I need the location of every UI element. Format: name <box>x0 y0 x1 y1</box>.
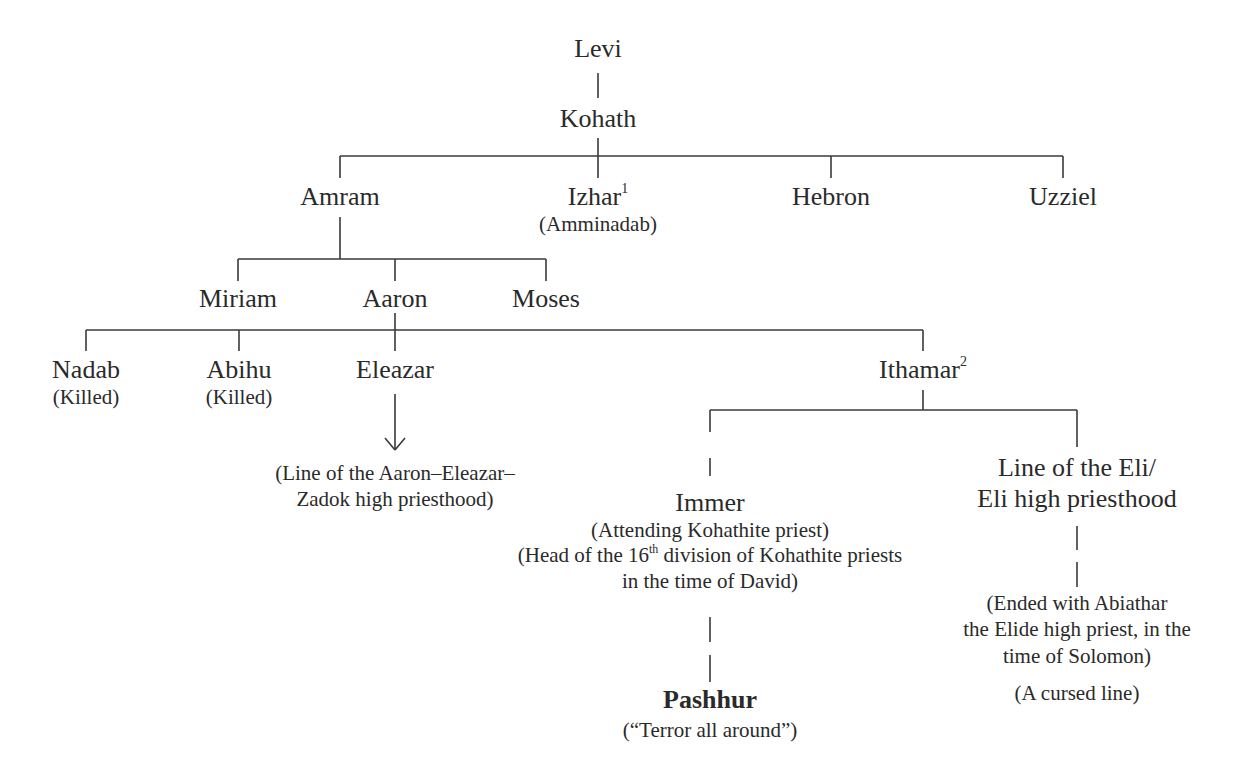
eleazar-note: (Line of the Aaron–Eleazar– Zadok high p… <box>275 460 515 513</box>
izhar-note: (Amminadab) <box>539 212 657 236</box>
node-abihu: Abihu (Killed) <box>206 355 272 409</box>
immer-name: Immer <box>675 488 744 517</box>
immer-note2-line2: in the time of David) <box>622 569 798 593</box>
eli-note-line2: the Elide high priest, in the <box>963 617 1190 641</box>
eli-note: (Ended with Abiathar the Elide high prie… <box>963 590 1190 669</box>
ithamar-name: Ithamar <box>879 355 960 384</box>
eli-note-line3: time of Solomon) <box>1003 644 1151 668</box>
eli-note-line1: (Ended with Abiathar <box>987 591 1168 615</box>
node-miriam: Miriam <box>199 284 277 314</box>
ithamar-footnote: 2 <box>960 354 967 369</box>
node-eli-line: Line of the Eli/ Eli high priesthood <box>977 452 1176 514</box>
izhar-name: Izhar <box>568 182 621 211</box>
nadab-name: Nadab <box>52 355 120 384</box>
eleazar-note-line1: (Line of the Aaron–Eleazar– <box>275 461 515 485</box>
node-kohath: Kohath <box>560 104 637 134</box>
pashhur-note: (“Terror all around”) <box>623 718 798 742</box>
abihu-note: (Killed) <box>206 385 272 409</box>
immer-note2: (Head of the 16th division of Kohathite … <box>518 543 902 567</box>
node-aaron: Aaron <box>363 284 428 314</box>
eli-cursed-note: (A cursed line) <box>1015 681 1140 705</box>
izhar-footnote: 1 <box>621 181 628 196</box>
node-eleazar: Eleazar <box>356 355 434 385</box>
node-immer: Immer (Attending Kohathite priest) (Head… <box>518 487 902 594</box>
node-moses: Moses <box>512 284 580 314</box>
eleazar-note-line2: Zadok high priesthood) <box>296 487 493 511</box>
node-nadab: Nadab (Killed) <box>52 355 120 409</box>
node-ithamar: Ithamar2 <box>879 355 967 385</box>
node-pashhur: Pashhur <box>663 685 757 715</box>
node-izhar: Izhar1 (Amminadab) <box>539 182 657 236</box>
immer-note1: (Attending Kohathite priest) <box>591 518 829 542</box>
abihu-name: Abihu <box>206 355 271 384</box>
node-amram: Amram <box>300 182 379 212</box>
node-uzziel: Uzziel <box>1029 182 1097 212</box>
nadab-note: (Killed) <box>53 385 119 409</box>
node-levi: Levi <box>574 34 622 64</box>
eli-name-line2: Eli high priesthood <box>977 484 1176 513</box>
eli-name-line1: Line of the Eli/ <box>998 453 1156 482</box>
node-hebron: Hebron <box>792 182 870 212</box>
